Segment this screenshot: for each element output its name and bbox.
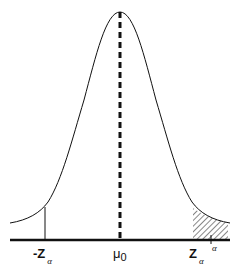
mean-label: μ0: [113, 246, 127, 261]
neg-critical-sub: α: [47, 256, 52, 266]
mean-main: μ: [113, 246, 121, 261]
mean-sub: 0: [121, 251, 127, 263]
normal-curve-diagram: [0, 0, 243, 266]
pos-critical-main: Z: [189, 246, 197, 261]
shaded-area-label: α: [212, 243, 217, 253]
neg-critical-main: -Z: [33, 246, 45, 261]
neg-critical-label: -Zα: [33, 246, 52, 261]
pos-critical-sub: α: [199, 256, 204, 266]
pos-critical-label: Zα: [189, 246, 204, 261]
